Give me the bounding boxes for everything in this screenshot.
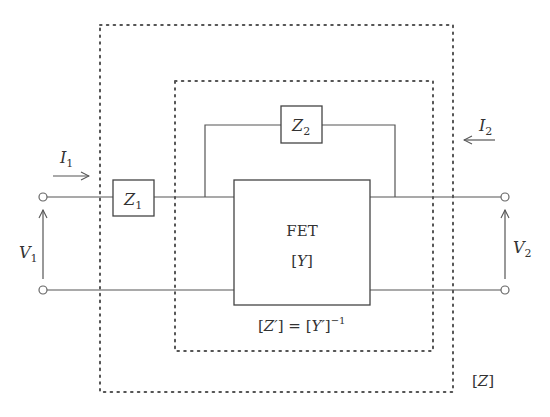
- v1-label: V1: [19, 243, 38, 265]
- i2-label: I2: [478, 116, 492, 138]
- i1-label: I1: [59, 148, 73, 170]
- port1-bottom-terminal: [39, 286, 47, 294]
- inner-matrix-label: [Z′] = [Y′]−1: [258, 315, 345, 335]
- fet-y-matrix-label: [Y]: [291, 252, 313, 270]
- fet-label: FET: [286, 222, 317, 240]
- port2-top-terminal: [501, 193, 509, 201]
- v2-label: V2: [513, 238, 532, 260]
- outer-matrix-label: [Z]: [472, 372, 494, 390]
- fet-box: [234, 180, 370, 305]
- port2-bottom-terminal: [501, 286, 509, 294]
- port1-top-terminal: [39, 193, 47, 201]
- circuit-diagram: Z1 Z2 FET [Y] [Z′] = [Y′]−1 [Z] V1 V2 I1…: [0, 0, 550, 417]
